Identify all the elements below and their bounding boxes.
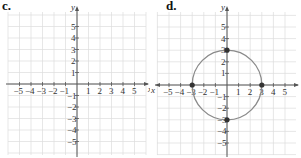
y-tick-label: 4 [71, 33, 76, 43]
x-tick-label: 1 [236, 87, 241, 97]
y-axis-label: y [70, 2, 75, 12]
x-tick-label: 1 [86, 86, 91, 96]
coordinate-plane-c: yx−5−4−3−2−11234554321−1−2−3−4−5 [0, 0, 150, 158]
y-tick-label: −5 [67, 137, 77, 147]
y-tick-label: −2 [217, 103, 227, 113]
plotted-point [224, 48, 229, 53]
x-tick-label: −5 [14, 86, 24, 96]
y-tick-label: −4 [67, 125, 77, 135]
x-tick-label: 2 [98, 86, 103, 96]
y-axis-label: y [220, 2, 225, 12]
x-tick-label: −2 [48, 86, 58, 96]
y-tick-label: 1 [71, 68, 76, 78]
x-tick-label: 4 [271, 87, 276, 97]
y-tick-label: −3 [67, 114, 77, 124]
y-tick-label: −1 [217, 92, 227, 102]
y-tick-label: 2 [221, 57, 226, 67]
x-tick-label: −3 [186, 87, 196, 97]
coordinate-plane-d: yx−5−4−3−2−11234554321−1−2−3−4−5 [150, 0, 301, 158]
panel-c: c. yx−5−4−3−2−11234554321−1−2−3−4−5 [0, 0, 150, 158]
x-tick-label: −5 [163, 87, 173, 97]
y-tick-label: −1 [67, 91, 77, 101]
x-tick-label: −2 [198, 87, 208, 97]
y-tick-label: 2 [71, 56, 76, 66]
y-axis-arrow-icon [75, 6, 79, 11]
x-tick-label: 2 [248, 87, 253, 97]
y-tick-label: 5 [71, 22, 76, 32]
y-tick-label: −2 [67, 102, 77, 112]
y-tick-label: −5 [217, 138, 227, 148]
x-tick-label: 4 [121, 86, 126, 96]
x-tick-label: −3 [37, 86, 47, 96]
x-tick-label: 3 [109, 86, 114, 96]
y-tick-label: −4 [217, 126, 227, 136]
x-tick-label: −4 [175, 87, 185, 97]
y-tick-label: 5 [221, 22, 226, 32]
y-axis-arrow-icon [225, 6, 229, 11]
x-tick-label: 5 [283, 87, 288, 97]
plotted-point [190, 82, 195, 87]
y-tick-label: 4 [221, 34, 226, 44]
x-axis-arrow-icon [294, 83, 299, 87]
x-tick-label: −4 [25, 86, 35, 96]
y-tick-label: 3 [71, 45, 76, 55]
plotted-point [259, 82, 264, 87]
plotted-point [224, 117, 229, 122]
x-tick-label: 5 [132, 86, 137, 96]
y-tick-label: 1 [221, 68, 226, 78]
x-axis-label: x [150, 85, 155, 95]
panel-d: d. yx−5−4−3−2−11234554321−1−2−3−4−5 [150, 0, 301, 158]
